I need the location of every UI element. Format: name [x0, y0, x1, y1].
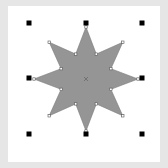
node-marker-icon[interactable]	[110, 68, 112, 70]
node-marker-icon[interactable]	[137, 78, 139, 80]
node-marker-icon[interactable]	[60, 88, 62, 90]
resize-handle[interactable]	[27, 132, 32, 137]
node-marker-icon[interactable]	[60, 68, 62, 70]
resize-handle[interactable]	[140, 76, 145, 81]
node-marker-icon[interactable]	[95, 103, 97, 105]
node-marker-icon[interactable]	[48, 41, 50, 43]
resize-handle[interactable]	[84, 132, 89, 137]
node-marker-icon[interactable]	[85, 26, 87, 28]
resize-handle[interactable]	[27, 76, 32, 81]
drawing-layer	[0, 0, 168, 168]
node-marker-icon[interactable]	[122, 115, 124, 117]
node-marker-icon[interactable]	[95, 53, 97, 55]
node-marker-icon[interactable]	[48, 115, 50, 117]
node-marker-icon[interactable]	[33, 78, 35, 80]
resize-handle[interactable]	[140, 132, 145, 137]
resize-handle[interactable]	[140, 21, 145, 26]
node-marker-icon[interactable]	[75, 103, 77, 105]
resize-handle[interactable]	[84, 21, 89, 26]
node-marker-icon[interactable]	[122, 41, 124, 43]
resize-handle[interactable]	[27, 21, 32, 26]
node-marker-icon[interactable]	[110, 88, 112, 90]
node-marker-icon[interactable]	[75, 53, 77, 55]
